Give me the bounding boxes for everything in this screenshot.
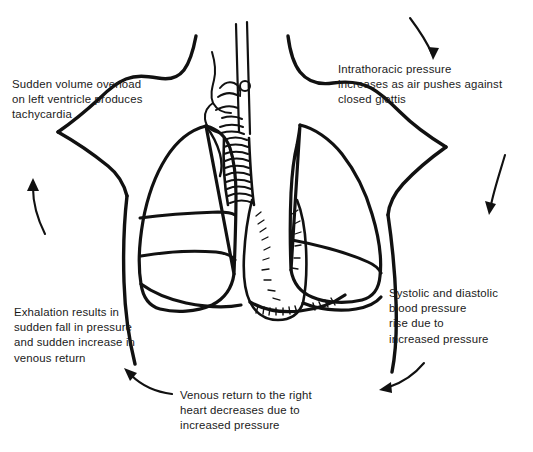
trachea [224, 138, 254, 205]
caption-systolic-diastolic: Systolic and diastolic blood pressure ri… [389, 286, 498, 347]
caption-exhalation: Exhalation results in sudden fall in pre… [14, 305, 135, 366]
valsalva-maneuver-figure: Sudden volume overload on left ventricle… [0, 0, 533, 452]
left-lung [290, 125, 381, 302]
arrow-bottom-left-icon [124, 368, 172, 394]
larynx [205, 52, 250, 134]
caption-tachycardia: Sudden volume overload on left ventricle… [12, 77, 143, 123]
arrow-top-right-icon [410, 18, 439, 60]
arrow-right-icon [485, 155, 505, 215]
arrow-left-icon [27, 178, 45, 234]
caption-venous-return: Venous return to the right heart decreas… [180, 388, 312, 434]
right-lung [139, 126, 236, 311]
caption-intrathoracic-pressure: Intrathoracic pressure increases as air … [338, 62, 502, 108]
arrow-bottom-right-icon [379, 363, 424, 393]
